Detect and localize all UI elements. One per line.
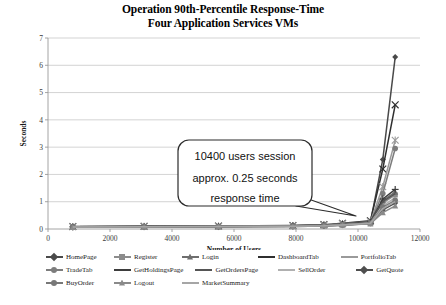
legend-item-register[interactable]: Register: [114, 253, 170, 261]
legend-label: Register: [134, 253, 157, 261]
y-tick-label: 2: [39, 170, 43, 179]
x-tick-label: 0: [46, 234, 50, 243]
legend-marker-icon: [258, 253, 275, 260]
legend-marker-icon: [341, 253, 358, 260]
chart-legend: HomePageRegisterLoginDashboardTabPortfol…: [0, 250, 446, 305]
legend-row: TradeTabGetHoldingsPageGetOrdersPageSell…: [0, 263, 446, 276]
legend-label: SellOrder: [298, 266, 325, 274]
x-tick-label: 4000: [165, 234, 180, 243]
legend-item-portfoliotab[interactable]: PortfolioTab: [341, 253, 397, 261]
legend-row: HomePageRegisterLoginDashboardTabPortfol…: [0, 250, 446, 263]
y-tick-label: 3: [39, 143, 43, 152]
legend-item-getorderspage[interactable]: GetOrdersPage: [195, 266, 258, 274]
legend-marker-icon: [114, 279, 131, 286]
x-tick-label: 10000: [349, 234, 368, 243]
legend-row: BuyOrderLogoutMarketSummary: [0, 276, 446, 289]
legend-marker-icon: [114, 253, 131, 260]
x-tick-label: 2000: [103, 234, 118, 243]
data-point-marker: [392, 54, 398, 60]
legend-marker-icon: [195, 266, 212, 273]
legend-marker-icon: [46, 279, 63, 286]
legend-item-tradetab[interactable]: TradeTab: [46, 266, 102, 274]
y-tick-label: 4: [39, 116, 43, 125]
legend-marker-icon: [356, 266, 373, 273]
data-point-marker: [392, 146, 398, 152]
legend-label: BuyOrder: [66, 279, 94, 287]
legend-item-getholdingspage[interactable]: GetHoldingsPage: [114, 266, 183, 274]
legend-item-logout[interactable]: Logout: [114, 279, 170, 287]
legend-item-marketsummary[interactable]: MarketSummary: [182, 279, 249, 287]
legend-item-buyorder[interactable]: BuyOrder: [46, 279, 102, 287]
legend-marker-icon: [278, 266, 295, 273]
data-point-marker: [380, 191, 386, 197]
y-tick-label: 0: [39, 225, 43, 234]
legend-label: PortfolioTab: [361, 253, 396, 261]
legend-marker-icon: [182, 253, 199, 260]
y-tick-label: 5: [39, 88, 43, 97]
legend-marker-icon: [46, 253, 63, 260]
legend-label: GetHoldingsPage: [134, 266, 183, 274]
callout-text-line-2: approx. 0.25 seconds: [192, 172, 298, 184]
y-axis-title: Seconds: [19, 121, 28, 147]
legend-item-login[interactable]: Login: [182, 253, 238, 261]
x-tick-label: 8000: [289, 234, 304, 243]
legend-item-dashboardtab[interactable]: DashboardTab: [258, 253, 319, 261]
legend-label: MarketSummary: [202, 279, 249, 287]
legend-label: HomePage: [66, 253, 97, 261]
legend-label: Login: [202, 253, 219, 261]
legend-label: GetOrdersPage: [215, 266, 258, 274]
legend-item-sellorder[interactable]: SellOrder: [278, 266, 334, 274]
legend-label: GetQuote: [376, 266, 403, 274]
y-tick-label: 6: [39, 61, 43, 70]
data-point-marker: [392, 137, 399, 145]
legend-label: TradeTab: [66, 266, 92, 274]
y-tick-label: 1: [39, 197, 43, 206]
plot-area: 01234567020004000600080001000012000Secon…: [0, 0, 446, 250]
chart-container: Operation 90th-Percentile Response-Time …: [0, 0, 446, 305]
legend-marker-icon: [182, 279, 199, 286]
legend-label: DashboardTab: [278, 253, 319, 261]
x-tick-label: 6000: [227, 234, 242, 243]
callout-text-line-1: 10400 users session: [195, 150, 296, 162]
callout-text-line-3: response time: [210, 192, 279, 204]
legend-item-getquote[interactable]: GetQuote: [356, 266, 412, 274]
y-tick-label: 7: [39, 34, 43, 43]
x-tick-label: 12000: [411, 234, 430, 243]
legend-marker-icon: [114, 266, 131, 273]
legend-marker-icon: [46, 266, 63, 273]
legend-label: Logout: [134, 279, 154, 287]
legend-item-homepage[interactable]: HomePage: [46, 253, 102, 261]
